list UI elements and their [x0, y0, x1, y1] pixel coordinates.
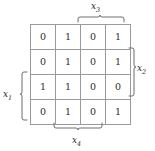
kmap-cell-r2c2: 1	[56, 50, 81, 75]
kmap-cell-r3c1: 1	[31, 75, 56, 100]
kmap-cell-r1c3: 0	[81, 25, 106, 50]
kmap-cell-r3c4: 0	[106, 75, 131, 100]
kmap-cell-r2c1: 0	[31, 50, 56, 75]
kmap-cell-r2c4: 1	[106, 50, 131, 75]
kmap-cell-r3c2: 1	[56, 75, 81, 100]
brace-x1-left	[20, 72, 27, 120]
variable-label-x3-subscript: 3	[96, 6, 100, 14]
variable-label-x4-subscript: 4	[77, 140, 81, 148]
kmap-cell-r4c2: 1	[56, 100, 81, 125]
variable-label-x1-subscript: 1	[8, 94, 12, 102]
karnaugh-map-grid: 0 1 0 1 0 1 0 1 1 1 0 0 0 1 0 1	[30, 24, 131, 125]
variable-label-x2: x2	[137, 63, 146, 76]
karnaugh-map-figure: 0 1 0 1 0 1 0 1 1 1 0 0 0 1 0 1	[0, 0, 155, 151]
brace-x3-top	[78, 15, 124, 22]
variable-label-x2-subscript: 2	[142, 68, 146, 76]
kmap-cell-r4c4: 1	[106, 100, 131, 125]
kmap-cell-r3c3: 0	[81, 75, 106, 100]
variable-label-x4: x4	[72, 135, 81, 148]
kmap-cell-r2c3: 0	[81, 50, 106, 75]
kmap-cell-r1c4: 1	[106, 25, 131, 50]
table-row: 0 1 0 1	[31, 25, 131, 50]
kmap-cell-r1c1: 0	[31, 25, 56, 50]
table-row: 0 1 0 1	[31, 50, 131, 75]
kmap-cell-r1c2: 1	[56, 25, 81, 50]
kmap-cell-r4c3: 0	[81, 100, 106, 125]
variable-label-x3: x3	[91, 1, 100, 14]
kmap-cell-r4c1: 0	[31, 100, 56, 125]
table-row: 0 1 0 1	[31, 100, 131, 125]
variable-label-x1: x1	[3, 89, 12, 102]
table-row: 1 1 0 0	[31, 75, 131, 100]
